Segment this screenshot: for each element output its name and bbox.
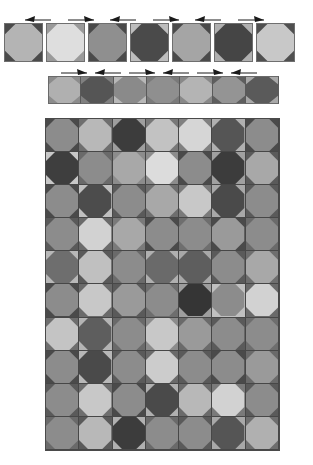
grid-tile [79,351,112,384]
grid-tile [79,384,112,417]
octagon-shape [113,417,145,449]
octagon-shape [246,318,278,350]
grid-tile [113,152,146,185]
second-strip-tile [147,76,180,104]
grid-tile [146,284,179,317]
grid-tile [113,119,146,152]
grid-tile [212,318,245,351]
grid-tile [179,185,212,218]
arrow-right-icon [60,67,88,76]
octagon-shape [46,218,78,250]
grid-tile [246,384,279,417]
grid-tile [179,251,212,284]
arrow-left-icon [162,67,190,76]
grid-tile [212,218,245,251]
second-strip-tile [180,76,213,104]
grid-tile [46,218,79,251]
octagon-shape [246,119,278,151]
grid-tile [79,119,112,152]
grid-tile [212,119,245,152]
top-strip-tile [130,23,169,62]
grid-tile [146,384,179,417]
grid-tile [79,251,112,284]
grid-tile [212,152,245,185]
top-strip-tile [172,23,211,62]
octagon-shape [212,351,244,383]
octagon-shape [180,77,212,103]
octagon-shape [179,384,211,416]
arrow-right-icon [152,14,180,23]
grid-tile [246,119,279,152]
octagon-shape [246,417,278,449]
grid-tile [246,152,279,185]
grid-tile [46,417,79,450]
octagon-shape [46,284,78,316]
grid-tile [46,251,79,284]
octagon-shape [47,24,84,61]
octagon-shape [49,77,80,103]
octagon-shape [113,351,145,383]
grid-tile [46,284,79,317]
second-strip-tile [246,76,279,104]
octagon-shape [146,284,178,316]
octagon-shape [146,384,178,416]
octagon-shape [246,77,278,103]
top-strip-tile [4,23,43,62]
grid-tile [46,185,79,218]
grid-tile [113,318,146,351]
octagon-shape [46,119,78,151]
octagon-shape [146,185,178,217]
octagon-shape [212,251,244,283]
octagon-shape [113,251,145,283]
arrow-left-icon [109,14,137,23]
grid-tile [246,284,279,317]
grid-tile [113,351,146,384]
grid-tile [79,284,112,317]
grid-tile [212,351,245,384]
grid-tile [113,218,146,251]
octagon-shape [146,119,178,151]
octagon-shape [79,185,111,217]
octagon-shape [146,351,178,383]
grid-tile [79,152,112,185]
octagon-shape [179,417,211,449]
octagon-shape [179,351,211,383]
octagon-shape [246,251,278,283]
grid-tile [179,384,212,417]
grid-tile [246,185,279,218]
octagon-shape [46,318,78,350]
octagon-shape [146,251,178,283]
octagon-shape [179,284,211,316]
second-strip-tile [48,76,81,104]
octagon-shape [46,251,78,283]
octagon-shape [146,152,178,184]
octagon-shape [212,185,244,217]
grid-tile [246,251,279,284]
grid-tile [246,417,279,450]
octagon-shape [179,218,211,250]
octagon-shape [46,351,78,383]
grid-tile [79,218,112,251]
top-tile-strip [4,23,295,62]
grid-tile [246,218,279,251]
octagon-shape [79,152,111,184]
octagon-shape [173,24,210,61]
grid-tile [113,185,146,218]
second-strip-tile [114,76,147,104]
grid-tile [79,185,112,218]
octagon-shape [113,119,145,151]
arrow-right-icon [67,14,95,23]
main-tile-grid [45,118,280,451]
grid-tile [46,318,79,351]
octagon-shape [212,119,244,151]
grid-tile [179,218,212,251]
octagon-shape [79,417,111,449]
grid-tile [246,318,279,351]
octagon-shape [79,284,111,316]
octagon-shape [215,24,252,61]
octagon-shape [246,218,278,250]
grid-tile [46,384,79,417]
octagon-shape [113,218,145,250]
grid-tile [179,417,212,450]
grid-tile [46,119,79,152]
